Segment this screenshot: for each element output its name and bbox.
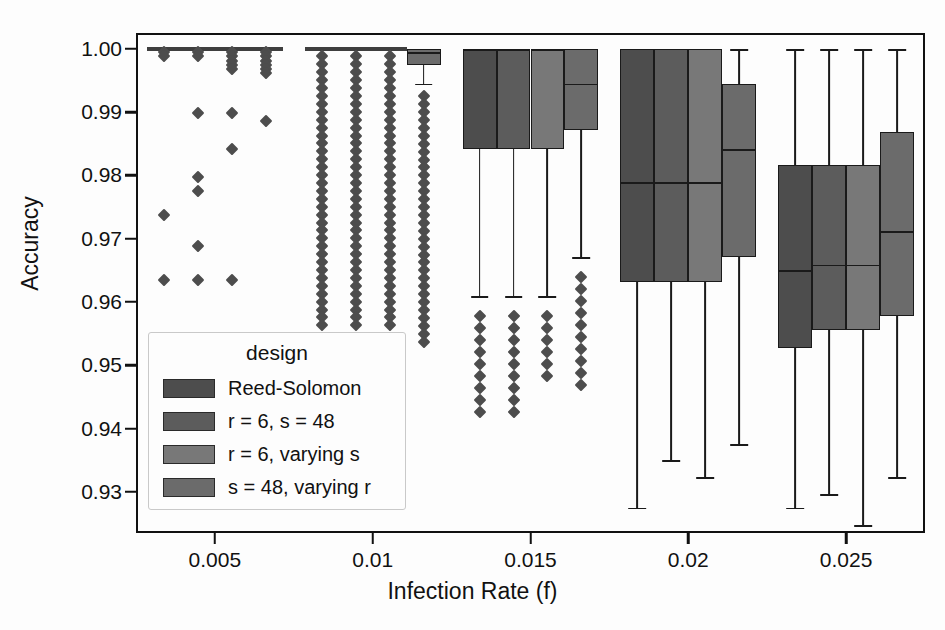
x-tick-label: 0.005 <box>189 548 242 572</box>
outlier-marker <box>315 319 328 332</box>
median-line <box>497 49 531 51</box>
median-line <box>531 49 565 51</box>
outlier-marker <box>192 184 205 197</box>
whisker-lower <box>862 330 864 525</box>
whisker-upper <box>794 49 796 165</box>
whisker-cap-upper <box>786 49 804 51</box>
legend-swatch <box>163 445 215 464</box>
y-tick-mark <box>125 301 136 304</box>
outlier-marker <box>383 319 396 332</box>
whisker-lower <box>513 149 515 296</box>
outlier-marker <box>473 382 486 395</box>
median-line <box>722 149 756 151</box>
x-tick-mark <box>529 533 532 544</box>
legend-swatch <box>163 478 215 497</box>
legend-label: Reed-Solomon <box>228 377 361 400</box>
outlier-marker <box>575 342 588 355</box>
outlier-marker <box>158 273 171 286</box>
y-axis-tick-labels: 1.000.990.980.970.960.950.940.93 <box>0 0 122 630</box>
whisker-cap-lower <box>471 296 489 298</box>
median-line <box>812 265 846 267</box>
outlier-marker <box>259 115 272 128</box>
whisker-upper <box>738 49 740 84</box>
median-line <box>463 49 497 51</box>
whisker-cap-lower <box>663 460 681 462</box>
y-tick-mark <box>125 427 136 430</box>
outlier-marker <box>417 335 430 348</box>
outlier-marker <box>575 330 588 343</box>
outlier-marker <box>507 346 520 359</box>
x-tick-mark <box>687 533 690 544</box>
x-tick-label: 0.02 <box>668 548 709 572</box>
figure: Accuracy 1.000.990.980.970.960.950.940.9… <box>0 0 945 630</box>
outlier-marker <box>507 358 520 371</box>
y-tick-mark <box>125 174 136 177</box>
y-tick-mark <box>125 48 136 51</box>
whisker-cap-lower <box>730 444 748 446</box>
y-tick-label: 0.96 <box>81 290 122 314</box>
legend-label: s = 48, varying r <box>228 476 371 499</box>
outlier-marker <box>192 240 205 253</box>
median-line <box>688 182 722 184</box>
outlier-marker <box>575 294 588 307</box>
outlier-marker <box>507 406 520 419</box>
x-tick-label: 0.025 <box>820 548 873 572</box>
outlier-marker <box>473 334 486 347</box>
whisker-lower <box>896 316 898 477</box>
outlier-marker <box>575 318 588 331</box>
legend-item[interactable]: s = 48, varying r <box>163 472 371 502</box>
outlier-marker <box>158 209 171 222</box>
legend-item[interactable]: r = 6, s = 48 <box>163 406 335 436</box>
whisker-cap-lower <box>629 508 647 510</box>
outlier-marker <box>507 382 520 395</box>
whisker-lower <box>580 130 582 257</box>
whisker-lower <box>547 149 549 296</box>
outlier-marker <box>541 358 554 371</box>
y-tick-mark <box>125 111 136 114</box>
whisker-lower <box>738 257 740 444</box>
outlier-marker <box>225 142 238 155</box>
x-axis-label: Infection Rate (f) <box>0 578 945 605</box>
outlier-marker <box>473 310 486 323</box>
outlier-marker <box>473 394 486 407</box>
outlier-marker <box>575 270 588 283</box>
median-line <box>564 84 598 86</box>
outlier-marker <box>473 358 486 371</box>
whisker-cap-upper <box>820 49 838 51</box>
outlier-marker <box>575 282 588 295</box>
outlier-marker <box>507 370 520 383</box>
outlier-marker <box>349 319 362 332</box>
whisker-cap-lower <box>888 477 906 479</box>
outlier-marker <box>541 322 554 335</box>
median-line <box>778 270 812 272</box>
outlier-marker <box>225 273 238 286</box>
box <box>564 49 598 131</box>
legend-item[interactable]: Reed-Solomon <box>163 373 361 403</box>
outlier-marker <box>473 322 486 335</box>
outlier-marker <box>473 346 486 359</box>
outlier-marker <box>507 394 520 407</box>
y-tick-mark <box>125 364 136 367</box>
whisker-lower <box>828 330 830 494</box>
whisker-upper <box>896 49 898 133</box>
outlier-marker <box>541 334 554 347</box>
box <box>620 49 654 282</box>
whisker-cap-upper <box>854 49 872 51</box>
median-line <box>846 265 880 267</box>
whisker-cap-lower <box>786 508 804 510</box>
box <box>497 49 531 150</box>
legend-item[interactable]: r = 6, varying s <box>163 439 360 469</box>
whisker-upper <box>862 49 864 165</box>
whisker-cap-upper <box>888 49 906 51</box>
median-line <box>620 182 654 184</box>
legend-label: r = 6, varying s <box>228 443 360 466</box>
outlier-marker <box>473 406 486 419</box>
outlier-marker <box>225 106 238 119</box>
outlier-marker <box>541 370 554 383</box>
box <box>846 165 880 330</box>
outlier-marker <box>507 322 520 335</box>
outlier-marker <box>575 366 588 379</box>
whisker-lower <box>637 282 639 508</box>
y-tick-label: 0.93 <box>81 480 122 504</box>
box <box>880 132 914 316</box>
